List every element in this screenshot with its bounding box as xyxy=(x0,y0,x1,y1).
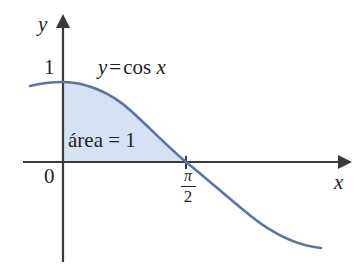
y-axis-arrowhead xyxy=(56,14,70,28)
area-annotation-label: área = 1 xyxy=(68,130,136,151)
curve-equation-equals: = xyxy=(107,55,123,79)
plot-canvas xyxy=(0,0,361,278)
y-axis-label: y xyxy=(38,14,47,35)
curve-equation-function: cos xyxy=(123,55,151,79)
figure-container: y x 1 0 y=cos x área = 1 π 2 xyxy=(0,0,361,278)
x-tick-label-pi-over-two: π 2 xyxy=(177,168,199,206)
fraction-denominator: 2 xyxy=(177,188,199,206)
x-axis-arrowhead xyxy=(338,155,352,169)
curve-equation-label: y=cos x xyxy=(98,57,166,78)
fraction-numerator: π xyxy=(177,168,199,185)
curve-equation-variable: x xyxy=(156,55,165,79)
curve-equation-lhs: y xyxy=(98,55,107,79)
y-tick-label-one: 1 xyxy=(44,57,55,78)
x-axis-label: x xyxy=(334,172,343,193)
origin-label: 0 xyxy=(44,166,55,187)
